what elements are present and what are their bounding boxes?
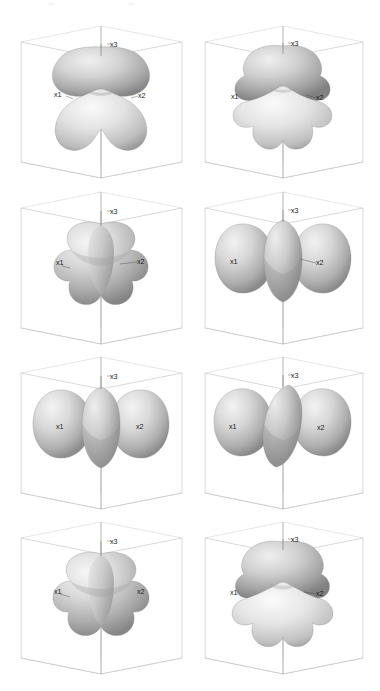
panel-4-plot: x3 x1 x2: [185, 176, 375, 346]
axis-label-x1: x1: [229, 422, 237, 431]
axis-label-x3: x3: [110, 372, 118, 381]
axis-label-x1: x1: [56, 422, 64, 431]
axis-label-x1: x1: [231, 92, 239, 101]
scan-artifact-right: [128, 3, 135, 5]
panel-5-plot: x3 x1 x2: [0, 341, 190, 511]
panel-5: x3 x1 x2: [0, 341, 190, 511]
panel-3-plot: x3 x1 x2: [0, 176, 190, 346]
axis-label-x1: x1: [56, 258, 64, 267]
panel-7-plot: x3 x1 x2: [0, 506, 190, 676]
panel-1-plot: x3 x1 x2: [0, 10, 190, 180]
axis-label-x3: x3: [110, 40, 118, 49]
axis-label-x3: x3: [291, 206, 299, 215]
scan-artifact-left: [48, 3, 55, 5]
axis-label-x2: x2: [137, 587, 145, 596]
panel-6: x3 x1 x2: [185, 341, 375, 511]
panel-8-plot: x3 x1 x2: [185, 506, 375, 676]
axis-label-x2: x2: [317, 423, 325, 432]
axis-label-x2: x2: [138, 91, 146, 100]
panel-7: x3 x1 x2: [0, 506, 190, 676]
panel-2-plot: x3 x1 x2: [185, 10, 375, 180]
axis-label-x2: x2: [316, 258, 324, 267]
axis-label-x3: x3: [110, 207, 118, 216]
panel-8: x3 x1 x2: [185, 506, 375, 676]
panel-2: x3 x1 x2: [185, 10, 375, 180]
axis-label-x1: x1: [54, 587, 62, 596]
leader-x1: [66, 96, 73, 99]
figure-canvas: x3 x1 x2: [0, 0, 380, 691]
axis-label-x1: x1: [230, 588, 238, 597]
axis-label-x1: x1: [54, 90, 62, 99]
isosurface-shape: [33, 387, 169, 468]
panel-3: x3 x1 x2: [0, 176, 190, 346]
panel-6-plot: x3 x1 x2: [185, 341, 375, 511]
isosurface-shape: [54, 222, 148, 305]
axis-label-x3: x3: [110, 537, 118, 546]
axis-label-x3: x3: [291, 535, 299, 544]
panel-4: x3 x1 x2: [185, 176, 375, 346]
axis-label-x1: x1: [230, 257, 238, 266]
axis-label-x3: x3: [291, 39, 299, 48]
axis-label-x3: x3: [291, 371, 299, 380]
axis-label-x2: x2: [316, 589, 324, 598]
axis-label-x2: x2: [316, 93, 324, 102]
panel-1: x3 x1 x2: [0, 10, 190, 180]
axis-label-x2: x2: [137, 257, 145, 266]
axis-label-x2: x2: [136, 422, 144, 431]
isosurface-shape: [53, 552, 149, 635]
leader-x2: [131, 96, 138, 98]
